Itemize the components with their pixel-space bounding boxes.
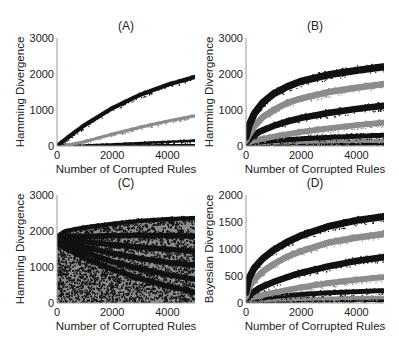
x-tick-label: 0 (54, 149, 60, 161)
y-axis-label: Hamming Divergence (14, 37, 26, 148)
plot-area (246, 64, 385, 148)
y-tick-label: 2000 (219, 68, 243, 80)
x-axis-label: Number of Corrupted Rules (245, 320, 386, 332)
x-tick-label: 0 (54, 306, 60, 318)
chart-panel-d: 0500100015002000020004000(D)Number of Co… (203, 176, 386, 332)
y-tick-label: 1500 (219, 216, 243, 228)
y-tick-label: 1000 (219, 243, 243, 255)
plot-area (57, 216, 197, 305)
chart-panel-a: 0100020003000020004000(A)Number of Corru… (14, 19, 197, 175)
x-tick-label: 4000 (344, 149, 368, 161)
x-axis-label: Number of Corrupted Rules (245, 163, 386, 175)
chart-panel-c: 0100020003000020004000(C)Number of Corru… (14, 176, 197, 332)
y-axis-label: Hamming Divergence (203, 37, 215, 148)
x-tick-label: 2000 (289, 149, 313, 161)
x-tick-label: 2000 (289, 306, 313, 318)
x-tick-label: 4000 (155, 149, 179, 161)
plot-area (57, 75, 196, 149)
y-tick-label: 1000 (30, 104, 54, 116)
x-tick-label: 4000 (344, 306, 368, 318)
y-tick-label: 3000 (30, 32, 54, 44)
chart-title: (A) (118, 19, 134, 33)
y-tick-label: 2000 (219, 189, 243, 201)
x-tick-label: 2000 (100, 306, 124, 318)
chart-panel-b: 0100020003000020004000(B)Number of Corru… (203, 19, 386, 175)
y-tick-label: 500 (225, 270, 243, 282)
y-tick-label: 1000 (30, 261, 54, 273)
y-tick-label: 3000 (219, 32, 243, 44)
x-axis-label: Number of Corrupted Rules (56, 320, 197, 332)
y-tick-label: 3000 (30, 189, 54, 201)
y-axis-label: Bayesian Divergence (203, 195, 215, 304)
chart-title: (D) (307, 176, 324, 190)
x-tick-label: 2000 (100, 149, 124, 161)
chart-title: (B) (307, 19, 323, 33)
y-tick-label: 2000 (30, 68, 54, 80)
figure: 0100020003000020004000(A)Number of Corru… (0, 0, 399, 345)
y-tick-label: 1000 (219, 104, 243, 116)
y-axis-label: Hamming Divergence (14, 194, 26, 305)
figure-canvas: 0100020003000020004000(A)Number of Corru… (0, 0, 399, 345)
series-band-1 (57, 77, 195, 146)
x-tick-label: 4000 (155, 306, 179, 318)
x-tick-label: 0 (243, 306, 249, 318)
x-tick-label: 0 (243, 149, 249, 161)
y-tick-label: 2000 (30, 225, 54, 237)
plot-area (246, 213, 385, 305)
x-axis-label: Number of Corrupted Rules (56, 163, 197, 175)
chart-title: (C) (118, 176, 135, 190)
